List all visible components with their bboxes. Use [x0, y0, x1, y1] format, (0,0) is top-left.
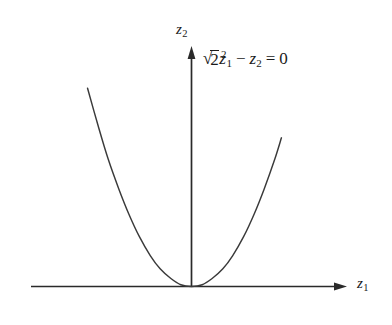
x-axis-label: z1 — [357, 276, 369, 293]
y-axis-label-var: z — [176, 21, 182, 37]
equation-equals-operator: = — [266, 49, 276, 68]
parabola-figure: z2 z1 √2z21−z2=0 — [0, 0, 392, 325]
y-axis-label: z2 — [176, 22, 188, 39]
equation-var1-subscript: 1 — [226, 57, 232, 69]
square-root-icon: √2 — [202, 49, 219, 67]
equation-minus-operator: − — [236, 49, 246, 68]
vertical-axis — [188, 46, 196, 287]
x-axis-label-subscript: 1 — [363, 282, 368, 293]
parabola-curve — [88, 88, 282, 286]
y-axis-label-subscript: 2 — [182, 28, 187, 39]
curve-equation-annotation: √2z21−z2=0 — [202, 49, 288, 69]
equation-rhs: 0 — [279, 49, 288, 68]
radicand-value: 2 — [210, 50, 220, 68]
plot-canvas — [0, 0, 392, 325]
x-axis-label-var: z — [357, 275, 363, 291]
equation-var2-subscript: 2 — [256, 57, 262, 69]
up-arrow-icon — [188, 46, 196, 59]
right-arrow-icon — [334, 283, 347, 291]
